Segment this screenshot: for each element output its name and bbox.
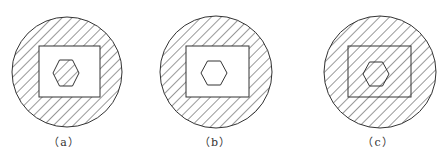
panel-a [12,17,122,127]
panel-c [324,16,436,128]
panel-label-a: （a） [48,133,80,149]
outer-circle [324,16,436,128]
panel-label-c: （c） [362,133,393,149]
panel-b [160,16,272,128]
panel-label-b: （b） [199,133,231,149]
